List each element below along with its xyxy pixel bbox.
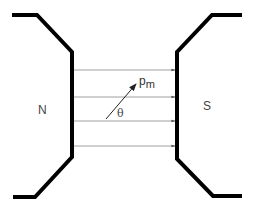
moment-label-main: p (139, 74, 146, 88)
moment-label-sub: m (146, 78, 155, 90)
north-pole-label: N (38, 103, 47, 117)
field-lines (74, 70, 175, 146)
south-pole-label: S (203, 99, 211, 113)
moment-label: pm (139, 74, 155, 90)
angle-theta-label: θ (117, 107, 124, 120)
